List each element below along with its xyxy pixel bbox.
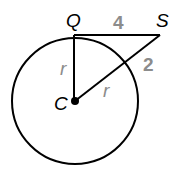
label-Q: Q: [66, 10, 81, 31]
label-C: C: [54, 93, 68, 114]
tangent-circle-diagram: Q 4 S 2 r r C: [0, 0, 181, 172]
label-outside-length: 2: [143, 54, 154, 75]
label-QS-length: 4: [113, 12, 124, 33]
label-radius-QC: r: [60, 58, 67, 79]
center-point: [71, 97, 79, 105]
label-S: S: [156, 10, 169, 31]
label-radius-CS: r: [103, 80, 110, 101]
